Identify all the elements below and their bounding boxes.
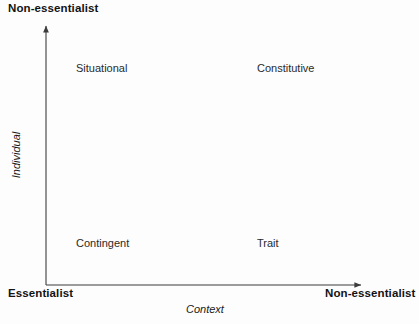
axis-lines [0,0,419,324]
quadrant-label-situational: Situational [76,62,127,74]
x-axis-high-pole-label: Non-essentialist [325,287,415,299]
origin-pole-label: Essentialist [8,287,73,299]
y-axis-title: Individual [10,132,22,178]
diagram-canvas: Non-essentialist Essentialist Non-essent… [0,0,419,324]
quadrant-label-constitutive: Constitutive [257,62,314,74]
quadrant-label-trait: Trait [257,237,279,249]
quadrant-label-contingent: Contingent [76,237,129,249]
x-axis-title: Context [186,303,224,315]
y-axis-high-pole-label: Non-essentialist [8,2,98,14]
